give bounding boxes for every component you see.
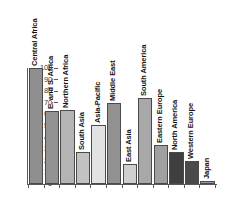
- bar[interactable]: [91, 125, 105, 184]
- x-axis-tick-mark: [75, 184, 76, 188]
- bar-category-label: North America: [172, 99, 180, 149]
- bar-slot: South Asia: [76, 0, 90, 184]
- bar-category-label: Northern Africa: [63, 55, 71, 108]
- bar[interactable]: [154, 145, 168, 184]
- bar-category-label: Japan: [203, 157, 211, 178]
- bar[interactable]: [76, 152, 90, 184]
- x-axis-tick-mark: [44, 184, 45, 188]
- bar[interactable]: [29, 68, 43, 184]
- bar-slot: Asia-Pacific: [91, 0, 105, 184]
- x-axis-tick-mark: [106, 184, 107, 188]
- x-axis-tick-mark: [28, 184, 29, 188]
- x-axis-tick-mark: [215, 184, 216, 188]
- bar[interactable]: [200, 181, 214, 184]
- x-axis-tick-mark: [90, 184, 91, 188]
- bar-category-label: Eastern Europe: [156, 89, 164, 143]
- x-axis-tick-mark: [199, 184, 200, 188]
- bar-slot: Eastern Europe: [154, 0, 168, 184]
- bar[interactable]: [123, 164, 137, 184]
- bar-category-label: South Asia: [78, 112, 86, 150]
- bar-slot: South America: [138, 0, 152, 184]
- bar-slot: Central Africa: [29, 0, 43, 184]
- x-axis-tick-mark: [168, 184, 169, 188]
- bar-slot: East Asia: [123, 0, 137, 184]
- x-axis-tick-mark: [153, 184, 154, 188]
- bar-slot: Western Europe: [185, 0, 199, 184]
- bar-chart: 0102030405060708090100 Central AfricaE. …: [0, 0, 239, 201]
- bar-slot: North America: [169, 0, 183, 184]
- bar-slot: Middle East: [107, 0, 121, 184]
- bar[interactable]: [138, 98, 152, 184]
- bar-category-label: Middle East: [109, 60, 117, 101]
- bar-slot: Northern Africa: [60, 0, 74, 184]
- x-axis-tick-mark: [184, 184, 185, 188]
- bar-category-label: Central Africa: [31, 18, 39, 66]
- bar-category-label: East Asia: [125, 130, 133, 163]
- bar[interactable]: [45, 111, 59, 184]
- x-axis-tick-mark: [59, 184, 60, 188]
- bar-slot: Japan: [200, 0, 214, 184]
- x-axis-tick-mark: [137, 184, 138, 188]
- bar-category-label: E. and S. Africa: [47, 56, 55, 109]
- bar[interactable]: [185, 161, 199, 184]
- bar-slot: E. and S. Africa: [45, 0, 59, 184]
- bar[interactable]: [107, 103, 121, 184]
- bar-category-label: Western Europe: [187, 103, 195, 159]
- bar-category-label: Asia-Pacific: [94, 82, 102, 123]
- bar[interactable]: [169, 152, 183, 184]
- y-axis-line: [27, 68, 28, 185]
- bar-series: Central AfricaE. and S. AfricaNorthern A…: [29, 0, 216, 185]
- x-axis-tick-mark: [122, 184, 123, 188]
- bar[interactable]: [60, 110, 74, 184]
- bar-category-label: South America: [140, 45, 148, 96]
